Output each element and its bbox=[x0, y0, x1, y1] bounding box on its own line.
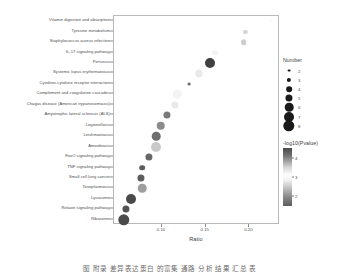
figure-caption-text: 图 附录 差异表达蛋白 的富集 通路 分析 结果 汇总 表 bbox=[0, 264, 340, 272]
size-legend-key: 4 bbox=[283, 84, 339, 93]
size-legend-dot bbox=[286, 86, 292, 92]
size-legend-dot bbox=[287, 78, 291, 82]
size-legend-label: 7 bbox=[298, 114, 300, 119]
y-axis-label: IL-17 signaling pathway bbox=[66, 50, 110, 54]
data-point bbox=[126, 194, 136, 204]
y-axis-label: Amyotrophic lateral sclerosis (ALS) bbox=[45, 112, 110, 116]
color-legend-title: -log10(Pvalue) bbox=[283, 140, 339, 146]
y-axis-label: Cytokine-cytokine receptor interaction bbox=[40, 81, 110, 85]
data-point bbox=[188, 83, 191, 86]
color-legend-tick-label: 2 bbox=[295, 194, 297, 199]
x-axis-tick-label: 0.20 bbox=[244, 228, 252, 232]
y-axis-label: Vitamin digestion and absorption bbox=[49, 18, 110, 22]
color-legend-tick bbox=[292, 177, 294, 178]
y-axis-label: Small cell lung cancer bbox=[69, 175, 110, 179]
y-axis-label: Complement and coagulation cascades bbox=[37, 91, 110, 95]
size-legend-label: 2 bbox=[298, 68, 300, 73]
color-legend-tick bbox=[292, 157, 294, 158]
color-legend-tick bbox=[292, 196, 294, 197]
data-point bbox=[164, 112, 171, 119]
color-legend-tick-label: 4 bbox=[295, 155, 297, 160]
data-point bbox=[138, 184, 147, 193]
size-legend-dot bbox=[285, 95, 292, 102]
size-legend-dot bbox=[285, 103, 294, 112]
size-legend-key: 8 bbox=[283, 121, 339, 130]
y-axis-label: Chagas disease (American trypanosomiasis… bbox=[27, 102, 110, 106]
y-axis-label: Lysosome bbox=[91, 196, 110, 200]
data-point bbox=[146, 154, 153, 161]
y-axis-label: Toxoplasmosis bbox=[83, 185, 111, 189]
data-point bbox=[270, 20, 273, 23]
y-axis-label: Relaxin signaling pathway bbox=[61, 206, 110, 210]
y-axis-label: Staphylococcus aureus infection bbox=[50, 39, 110, 43]
y-axis-label: Tyrosine metabolism bbox=[72, 29, 111, 33]
data-point bbox=[241, 39, 247, 45]
color-legend-tick-label: 3 bbox=[295, 175, 297, 180]
y-axis-label: Leishmaniasis bbox=[83, 133, 110, 137]
y-axis-label: Systemic lupus erythematosus bbox=[53, 70, 110, 74]
data-point bbox=[122, 206, 129, 213]
data-point bbox=[173, 90, 182, 99]
size-legend-dot bbox=[283, 120, 294, 131]
size-legend-title: Number bbox=[283, 57, 339, 63]
plot-panel bbox=[113, 15, 279, 224]
y-axis-label: Ribosome bbox=[91, 217, 110, 221]
size-legend-label: 6 bbox=[298, 105, 300, 110]
y-axis-label: FoxO signaling pathway bbox=[65, 154, 110, 158]
color-legend: -log10(Pvalue) 432 bbox=[283, 140, 339, 206]
color-legend-gradient-bar bbox=[283, 148, 292, 206]
figure-caption-clipped: 图 附录 差异表达蛋白 的富集 通路 分析 结果 汇总 表 bbox=[0, 264, 340, 272]
data-point bbox=[243, 30, 247, 34]
color-legend-bar-wrap: 432 bbox=[283, 148, 292, 206]
kegg-dot-plot-figure: Vitamin digestion and absorptionTyrosine… bbox=[0, 0, 340, 272]
size-legend-keys: 2345678 bbox=[283, 66, 339, 130]
y-axis-label: Legionellosis bbox=[86, 123, 110, 127]
size-legend-key: 6 bbox=[283, 103, 339, 112]
x-axis-title: Ratio bbox=[113, 236, 279, 242]
size-legend-label: 3 bbox=[298, 77, 300, 82]
data-point bbox=[139, 165, 145, 171]
size-legend-key: 3 bbox=[283, 75, 339, 84]
size-legend-key: 5 bbox=[283, 94, 339, 103]
data-point bbox=[151, 142, 161, 152]
x-axis-tick-label: 0.15 bbox=[201, 228, 209, 232]
data-point bbox=[196, 70, 203, 77]
data-point bbox=[152, 132, 161, 141]
size-legend-label: 8 bbox=[298, 123, 300, 128]
y-axis-label: TNF signaling pathway bbox=[67, 164, 110, 168]
data-point bbox=[205, 58, 215, 68]
size-legend-dot bbox=[288, 69, 291, 72]
size-legend: Number 2345678 bbox=[283, 57, 339, 130]
y-axis-label: Amoebiasis bbox=[88, 144, 110, 148]
data-point bbox=[213, 50, 219, 56]
data-point bbox=[118, 214, 129, 225]
y-axis-label: Pertussis bbox=[93, 60, 110, 64]
data-point bbox=[156, 121, 165, 130]
size-legend-label: 4 bbox=[298, 86, 300, 91]
data-point bbox=[171, 101, 178, 108]
size-legend-label: 5 bbox=[298, 96, 300, 101]
data-point bbox=[137, 174, 144, 181]
size-legend-key: 2 bbox=[283, 66, 339, 75]
x-axis-tick-label: 0.10 bbox=[157, 228, 165, 232]
y-axis-labels: Vitamin digestion and absorptionTyrosine… bbox=[0, 15, 110, 224]
